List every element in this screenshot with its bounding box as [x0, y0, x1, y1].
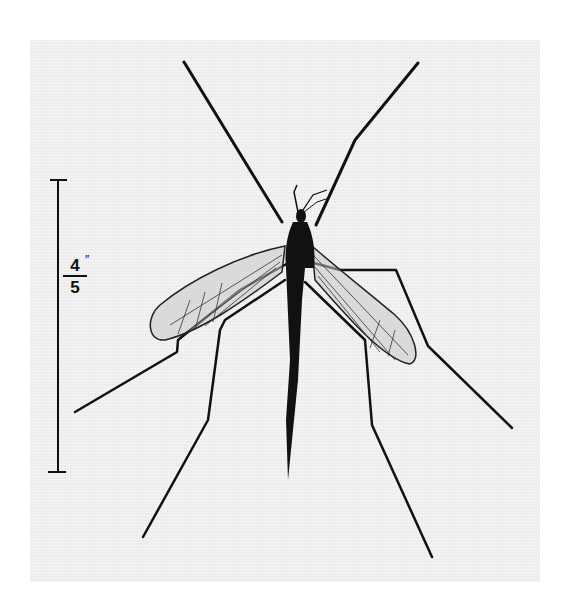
insect-body: [285, 185, 329, 480]
crane-fly-illustration: [0, 0, 568, 607]
scale-label: 4 5 ″: [63, 257, 87, 296]
front-legs: [184, 62, 418, 225]
scale-denominator: 5: [63, 277, 87, 296]
scale-unit: ″: [85, 254, 89, 266]
scale-numerator: 4: [63, 257, 87, 277]
scale-bar: [48, 180, 67, 472]
